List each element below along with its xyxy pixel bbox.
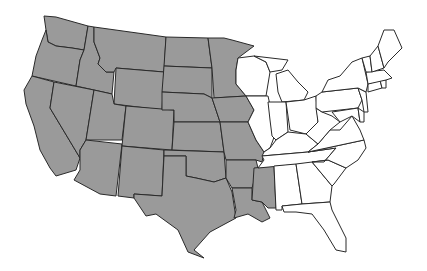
state-wy[interactable] bbox=[114, 68, 164, 110]
state-nm[interactable] bbox=[118, 146, 164, 198]
shaded-region bbox=[24, 16, 276, 258]
us-map bbox=[0, 0, 427, 271]
state-az[interactable] bbox=[74, 140, 122, 196]
state-ks[interactable] bbox=[172, 122, 224, 152]
state-ny[interactable] bbox=[322, 58, 368, 92]
state-co[interactable] bbox=[122, 106, 174, 150]
state-fl[interactable] bbox=[282, 202, 346, 252]
state-mt[interactable] bbox=[94, 27, 166, 72]
state-mi-lower[interactable] bbox=[276, 70, 308, 102]
state-nd[interactable] bbox=[164, 37, 212, 68]
